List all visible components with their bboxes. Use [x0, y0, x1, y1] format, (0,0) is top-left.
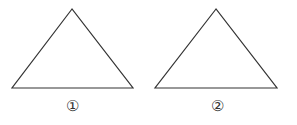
triangle-1-label: ① — [66, 99, 79, 114]
diagram-canvas — [0, 0, 297, 125]
triangle-2-label: ② — [211, 99, 224, 114]
triangle-1 — [12, 9, 133, 88]
triangle-2 — [155, 9, 277, 88]
